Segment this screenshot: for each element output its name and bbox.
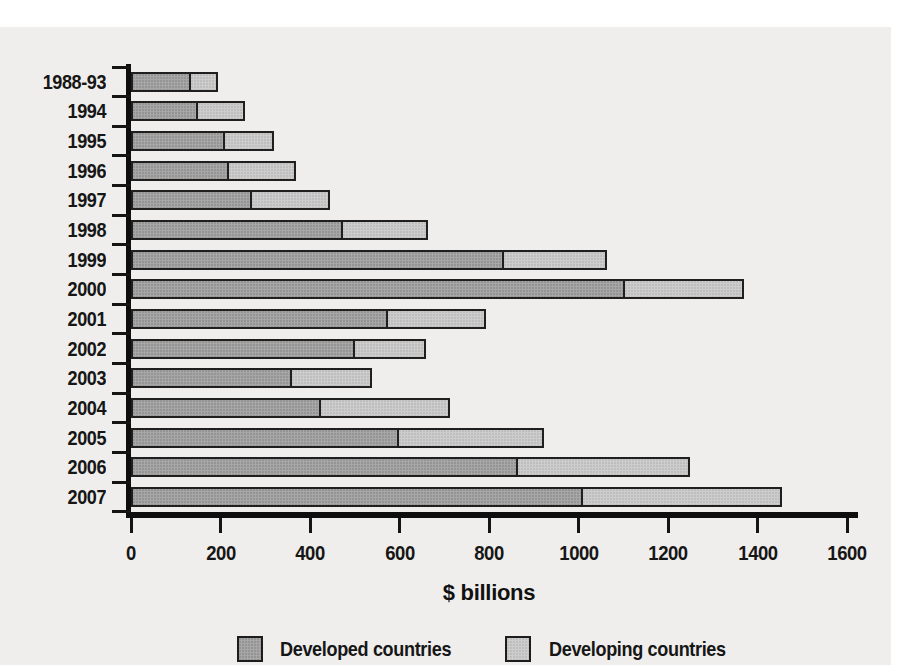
bar-segment-developing [343, 222, 426, 238]
y-axis-label: 2001 [15, 309, 106, 329]
bar-segment-developing [399, 430, 542, 446]
bar-row-2003 [131, 368, 372, 388]
bar-segment-developing [355, 341, 424, 357]
y-axis-label: 1994 [15, 101, 106, 121]
y-axis-label: 1988-93 [15, 72, 106, 92]
bar-segment-developed [133, 222, 343, 238]
y-axis-tick [112, 273, 131, 276]
bar-segment-developing [292, 370, 370, 386]
x-axis-title: $ billions [131, 580, 847, 606]
y-axis-tick [112, 481, 131, 484]
y-axis-tick [112, 421, 131, 424]
bar-segment-developed [133, 430, 399, 446]
bar-row-2007 [131, 487, 782, 507]
x-axis-tick-label: 0 [91, 541, 170, 565]
bar-row-2002 [131, 339, 426, 359]
y-axis-tick [112, 303, 131, 306]
bar-segment-developed [133, 281, 625, 297]
bar-segment-developing [388, 311, 484, 327]
bar-segment-developing [321, 400, 449, 416]
y-axis-label: 2004 [15, 398, 106, 418]
y-axis-tick [112, 125, 131, 128]
fdi-inflows-chart: 1988-93199419951996199719981999200020012… [0, 0, 916, 665]
x-axis-tick-label: 1200 [628, 541, 707, 565]
bar-segment-developing [225, 133, 272, 149]
x-axis-tick-label: 200 [181, 541, 260, 565]
x-axis-tick-label: 1600 [807, 541, 886, 565]
y-axis-tick [112, 451, 131, 454]
bar-row-1994 [131, 101, 245, 121]
y-axis-label: 2007 [15, 487, 106, 507]
bar-segment-developed [133, 311, 388, 327]
y-axis-label: 2000 [15, 279, 106, 299]
bar-segment-developing [198, 103, 243, 119]
bar-row-2004 [131, 398, 450, 418]
bar-segment-developed [133, 459, 518, 475]
bar-segment-developed [133, 489, 583, 505]
y-axis-label: 1997 [15, 190, 106, 210]
bar-row-1999 [131, 250, 607, 270]
legend-swatch-developing [505, 636, 531, 662]
x-axis-tick [577, 518, 580, 533]
y-axis-label: 1999 [15, 250, 106, 270]
x-axis-tick [846, 518, 849, 533]
bar-segment-developing [518, 459, 688, 475]
bar-segment-developing [229, 163, 294, 179]
x-axis-tick [130, 518, 133, 533]
bar-row-1998 [131, 220, 428, 240]
y-axis-tick [112, 332, 131, 335]
bar-segment-developed [133, 370, 292, 386]
bar-segment-developed [133, 400, 321, 416]
bar-row-2001 [131, 309, 486, 329]
bar-segment-developing [504, 252, 605, 268]
x-axis-tick [398, 518, 401, 533]
bar-segment-developed [133, 74, 191, 90]
bar-segment-developed [133, 192, 252, 208]
y-axis-label: 1995 [15, 131, 106, 151]
bar-segment-developed [133, 252, 504, 268]
x-axis-tick-label: 400 [270, 541, 349, 565]
x-axis-tick [309, 518, 312, 533]
y-axis-tick [112, 510, 131, 513]
bar-row-1988-93 [131, 72, 218, 92]
x-axis-tick-label: 1000 [539, 541, 618, 565]
x-axis-tick [667, 518, 670, 533]
legend-label-developing: Developing countries [549, 636, 726, 662]
y-axis-label: 1998 [15, 220, 106, 240]
bar-row-2005 [131, 428, 544, 448]
y-axis-tick [112, 66, 131, 69]
bar-segment-developing [252, 192, 328, 208]
y-axis-label: 2006 [15, 457, 106, 477]
y-axis-tick [112, 214, 131, 217]
legend-label-developed: Developed countries [280, 636, 451, 662]
x-axis-tick-label: 600 [360, 541, 439, 565]
bar-segment-developing [625, 281, 741, 297]
y-axis-tick [112, 184, 131, 187]
y-axis-tick [112, 392, 131, 395]
bar-segment-developed [133, 163, 229, 179]
bar-row-2000 [131, 279, 744, 299]
y-axis-tick [112, 95, 131, 98]
x-axis-line [126, 512, 858, 518]
y-axis-tick [112, 243, 131, 246]
bar-row-1996 [131, 161, 296, 181]
y-axis-label: 2005 [15, 428, 106, 448]
y-axis-tick [112, 362, 131, 365]
y-axis-label: 2002 [15, 339, 106, 359]
bar-segment-developed [133, 341, 355, 357]
bar-row-1997 [131, 190, 330, 210]
x-axis-tick-label: 1400 [718, 541, 797, 565]
y-axis-label: 2003 [15, 368, 106, 388]
bar-segment-developed [133, 133, 225, 149]
y-axis-tick [112, 154, 131, 157]
x-axis-tick [488, 518, 491, 533]
bar-row-1995 [131, 131, 274, 151]
bar-row-2006 [131, 457, 690, 477]
bar-segment-developing [583, 489, 780, 505]
x-axis-tick [219, 518, 222, 533]
x-axis-tick-label: 800 [449, 541, 528, 565]
x-axis-tick [756, 518, 759, 533]
bar-segment-developing [191, 74, 216, 90]
bar-segment-developed [133, 103, 198, 119]
y-axis-label: 1996 [15, 161, 106, 181]
